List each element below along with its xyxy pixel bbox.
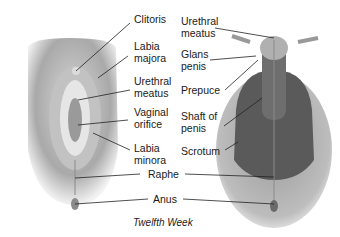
label-labia-minora: Labia minora [134, 142, 166, 166]
label-prepuce: Prepuce [181, 84, 220, 96]
label-vaginal-orifice: Vaginal orifice [134, 106, 168, 130]
caption: Twelfth Week [133, 217, 193, 228]
label-labia-majora: Labia majora [134, 40, 166, 64]
label-urethral-meatus-left: Urethral meatus [134, 75, 171, 99]
label-scrotum: Scrotum [181, 145, 220, 157]
diagram: Clitoris Labia majora Urethral meatus Va… [0, 0, 340, 237]
label-shaft-of-penis: Shaft of penis [181, 110, 217, 134]
label-anus: Anus [153, 193, 177, 205]
label-raphe: Raphe [148, 168, 179, 180]
label-urethral-meatus-right: Urethral meatus [181, 15, 218, 39]
left-figure [28, 38, 118, 210]
label-clitoris: Clitoris [134, 13, 166, 25]
label-glans-penis: Glans penis [181, 48, 208, 72]
right-figure [216, 36, 332, 228]
